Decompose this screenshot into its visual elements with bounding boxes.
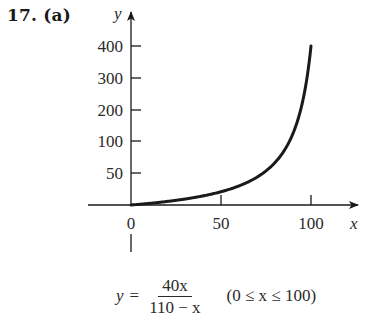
equation-fraction: 40x 110 − x — [145, 276, 204, 317]
y-ticks — [131, 46, 141, 173]
function-curve — [131, 46, 311, 205]
y-tick-label-50: 50 — [106, 164, 123, 183]
x-tick-label-50: 50 — [213, 214, 230, 233]
equation-numerator: 40x — [158, 276, 192, 297]
y-axis-label: y — [112, 4, 122, 23]
x-axis-label: x — [349, 214, 358, 233]
y-tick-label-300: 300 — [98, 69, 124, 88]
y-tick-label-200: 200 — [98, 101, 124, 120]
x-tick-label-0: 0 — [127, 214, 136, 233]
equation-equals: = — [130, 286, 140, 306]
equation-domain: (0 ≤ x ≤ 100) — [227, 286, 316, 306]
equation: y = 40x 110 − x (0 ≤ x ≤ 100) — [116, 274, 316, 318]
equation-denominator: 110 − x — [145, 297, 204, 317]
y-tick-label-400: 400 — [98, 37, 124, 56]
equation-lhs: y — [116, 286, 124, 306]
x-ticks — [221, 195, 311, 205]
x-tick-label-100: 100 — [298, 214, 324, 233]
y-tick-label-100: 100 — [98, 132, 124, 151]
